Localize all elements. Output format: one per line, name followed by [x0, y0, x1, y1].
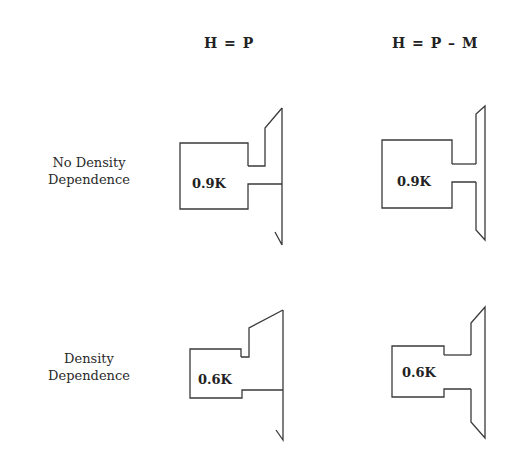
cell-value: 0.9K: [192, 176, 227, 191]
trapezoid-outline: [476, 106, 485, 240]
cell-no-dd-h-equals-p-minus-m: 0.9K: [382, 106, 485, 240]
neck-and-upper-flare: [248, 108, 282, 166]
cell-value: 0.6K: [198, 372, 233, 387]
cell-value: 0.6K: [402, 365, 437, 380]
vertical-line: [276, 310, 283, 440]
cell-no-dd-h-equals-p: 0.9K: [180, 108, 282, 245]
neck-and-upper-flare: [241, 310, 283, 357]
cell-value: 0.9K: [397, 174, 432, 189]
cell-dd-h-equals-p-minus-m: 0.6K: [392, 307, 485, 438]
diagram-canvas: 0.9K 0.9K 0.6K 0.6K: [0, 0, 514, 453]
vertical-line: [275, 108, 282, 245]
cell-dd-h-equals-p: 0.6K: [190, 310, 283, 440]
trapezoid-outline: [471, 307, 485, 438]
